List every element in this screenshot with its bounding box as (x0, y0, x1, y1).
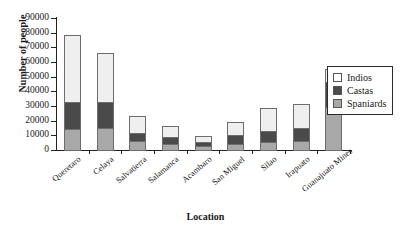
y-axis-tick-label: 0 (3, 145, 49, 155)
bar-segment-indios (129, 116, 146, 134)
y-axis-tick-label: 50000 (3, 72, 49, 82)
y-axis-tick-label: 70000 (3, 42, 49, 52)
bar-segment-spaniards (195, 146, 212, 151)
legend-item-indios: Indios (333, 71, 386, 84)
bar-segment-indios (97, 53, 114, 103)
y-axis-tick-label: 30000 (3, 101, 49, 111)
bar-segment-indios (64, 35, 81, 103)
chart-legend: Indios Castas Spaniards (327, 66, 393, 115)
y-axis-tick (51, 150, 56, 151)
legend-label-castas: Castas (347, 85, 373, 96)
y-axis-tick-label: 60000 (3, 57, 49, 67)
y-axis-tick-label: 90000 (3, 13, 49, 23)
bar-chart: Number of people 90000800007000060000500… (0, 0, 411, 236)
bar-salvatierra (129, 116, 146, 150)
bar-segment-indios (293, 104, 310, 129)
bar-irapuato (293, 104, 310, 150)
y-axis-tick-labels: 9000080000700006000050000400003000020000… (0, 0, 49, 160)
bar-segment-spaniards (97, 128, 114, 151)
plot-area (56, 18, 350, 150)
bar-segment-spaniards (162, 144, 179, 151)
legend-item-castas: Castas (333, 84, 386, 97)
y-axis-tick-label: 40000 (3, 86, 49, 96)
bar-queretaro (64, 35, 81, 150)
y-axis-tick-label: 10000 (3, 130, 49, 140)
bar-san-miguel (227, 122, 244, 150)
bar-segment-castas (293, 128, 310, 143)
x-axis-tick (89, 150, 90, 154)
x-axis-tick (219, 150, 220, 154)
x-axis-tick (252, 150, 253, 154)
bar-segment-spaniards (129, 141, 146, 151)
bar-segment-castas (64, 102, 81, 130)
bar-segment-castas (97, 102, 114, 129)
bar-celaya (97, 53, 114, 150)
legend-swatch-icon-castas (333, 86, 342, 95)
legend-swatch-icon-spaniards (333, 99, 342, 108)
legend-label-spaniards: Spaniards (347, 98, 386, 109)
y-axis-tick-label: 20000 (3, 116, 49, 126)
bar-segment-indios (260, 108, 277, 133)
x-axis-tick (154, 150, 155, 154)
bar-silao (260, 108, 277, 150)
bar-segment-spaniards (293, 141, 310, 151)
bar-acambaro (195, 136, 212, 150)
bar-salamanca (162, 126, 179, 150)
y-axis-tick-label: 80000 (3, 28, 49, 38)
bar-segment-spaniards (64, 129, 81, 151)
bar-segment-spaniards (227, 144, 244, 151)
legend-label-indios: Indios (347, 72, 372, 83)
bar-segment-spaniards (260, 142, 277, 151)
x-axis-tick (121, 150, 122, 154)
x-axis-tick (317, 150, 318, 154)
x-axis-title: Location (0, 211, 411, 222)
legend-item-spaniards: Spaniards (333, 97, 386, 110)
x-axis-tick (187, 150, 188, 154)
legend-swatch-icon-indios (333, 73, 342, 82)
bar-segment-indios (227, 122, 244, 136)
x-axis-tick (285, 150, 286, 154)
